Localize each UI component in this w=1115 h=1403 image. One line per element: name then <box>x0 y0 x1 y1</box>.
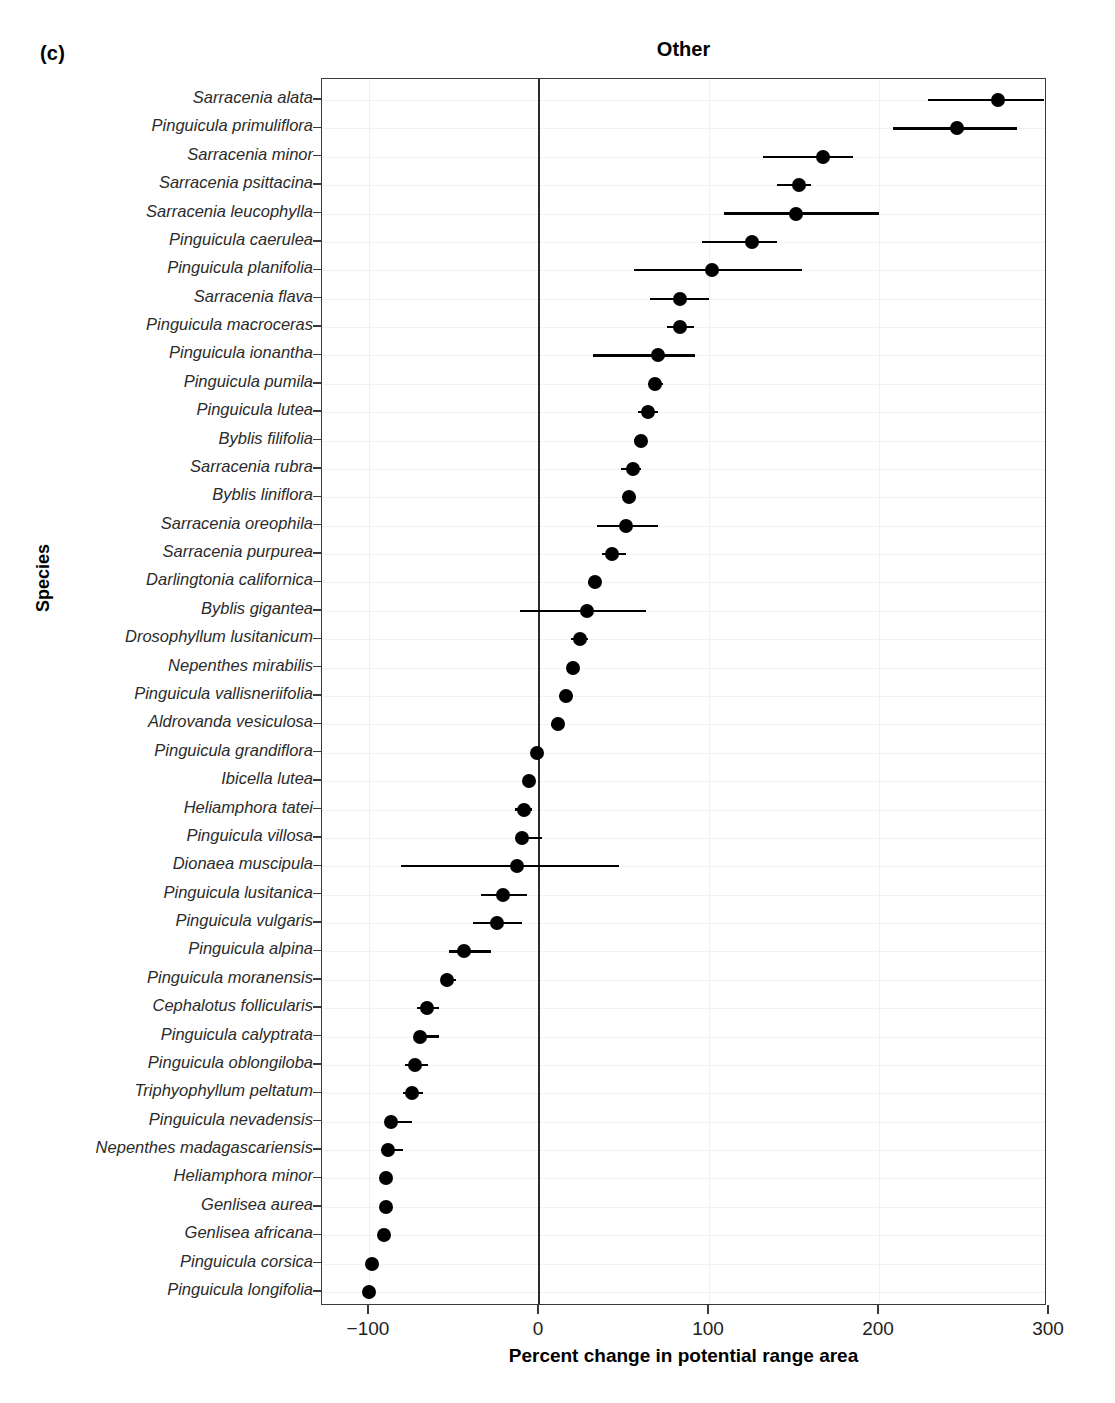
y-axis-tick <box>313 723 321 724</box>
data-point <box>626 462 640 476</box>
data-point <box>792 178 806 192</box>
data-point <box>490 916 504 930</box>
horizontal-gridline <box>322 469 1045 470</box>
plot-area <box>321 78 1046 1305</box>
x-axis-tick <box>707 1305 708 1314</box>
y-axis-tick <box>313 1290 321 1291</box>
y-tick-label: Sarracenia flava <box>194 287 313 306</box>
horizontal-gridline <box>322 980 1045 981</box>
y-tick-label: Pinguicula lusitanica <box>163 883 313 902</box>
y-axis-tick <box>313 1262 321 1263</box>
y-axis-tick <box>313 325 321 326</box>
data-point <box>745 235 759 249</box>
data-point <box>950 121 964 135</box>
y-tick-label: Pinguicula macroceras <box>146 315 313 334</box>
y-tick-label: Pinguicula vulgaris <box>175 911 313 930</box>
data-point <box>420 1001 434 1015</box>
x-tick-label: 100 <box>663 1318 753 1340</box>
y-tick-label: Nepenthes mirabilis <box>168 656 313 675</box>
data-point <box>440 973 454 987</box>
horizontal-gridline <box>322 753 1045 754</box>
horizontal-gridline <box>322 1122 1045 1123</box>
data-point <box>580 604 594 618</box>
y-axis-tick <box>313 1063 321 1064</box>
y-axis-tick <box>313 609 321 610</box>
y-tick-label: Sarracenia oreophila <box>161 514 313 533</box>
data-point <box>705 263 719 277</box>
y-axis-tick <box>313 836 321 837</box>
horizontal-gridline <box>322 668 1045 669</box>
data-point <box>457 944 471 958</box>
y-axis-tick <box>313 666 321 667</box>
y-axis-tick <box>313 581 321 582</box>
chart-title: Other <box>321 38 1046 61</box>
data-point <box>496 888 510 902</box>
horizontal-gridline <box>322 951 1045 952</box>
data-point <box>365 1257 379 1271</box>
y-tick-label: Byblis gigantea <box>201 599 313 618</box>
error-bar <box>928 99 1044 101</box>
y-axis-tick <box>313 893 321 894</box>
y-axis-tick <box>313 297 321 298</box>
vertical-gridline <box>879 79 880 1304</box>
data-point <box>559 689 573 703</box>
x-tick-label: 300 <box>1003 1318 1093 1340</box>
vertical-gridline <box>369 79 370 1304</box>
x-axis-tick <box>1047 1305 1048 1314</box>
error-bar <box>763 156 853 158</box>
horizontal-gridline <box>322 1150 1045 1151</box>
data-point <box>605 547 619 561</box>
horizontal-gridline <box>322 214 1045 215</box>
horizontal-gridline <box>322 526 1045 527</box>
y-tick-label: Sarracenia psittacina <box>159 173 313 192</box>
y-tick-label: Triphyophyllum peltatum <box>134 1081 313 1100</box>
y-tick-label: Pinguicula lutea <box>197 400 314 419</box>
data-point <box>377 1228 391 1242</box>
data-point <box>673 320 687 334</box>
y-axis-tick <box>313 1234 321 1235</box>
x-axis-tick <box>367 1305 368 1314</box>
x-axis-tick <box>877 1305 878 1314</box>
y-axis-tick <box>313 1035 321 1036</box>
y-tick-label: Heliamphora tatei <box>184 798 313 817</box>
zero-reference-line <box>538 79 540 1304</box>
horizontal-gridline <box>322 1093 1045 1094</box>
data-point <box>991 93 1005 107</box>
horizontal-gridline <box>322 441 1045 442</box>
data-point <box>515 831 529 845</box>
y-tick-label: Pinguicula alpina <box>188 939 313 958</box>
horizontal-gridline <box>322 1235 1045 1236</box>
x-tick-label: 0 <box>493 1318 583 1340</box>
horizontal-gridline <box>322 1178 1045 1179</box>
data-point <box>634 434 648 448</box>
y-tick-label: Pinguicula calyptrata <box>161 1025 313 1044</box>
y-axis-tick <box>313 808 321 809</box>
y-tick-label: Ibicella lutea <box>221 769 313 788</box>
y-tick-label: Pinguicula nevadensis <box>149 1110 313 1129</box>
y-tick-label: Sarracenia alata <box>193 88 313 107</box>
y-axis-tick <box>313 269 321 270</box>
y-tick-label: Pinguicula corsica <box>180 1252 313 1271</box>
horizontal-gridline <box>322 554 1045 555</box>
data-point <box>381 1143 395 1157</box>
y-axis-tick <box>313 354 321 355</box>
data-point <box>551 717 565 731</box>
horizontal-gridline <box>322 1207 1045 1208</box>
x-axis-tick <box>537 1305 538 1314</box>
data-point <box>651 348 665 362</box>
y-axis-tick <box>313 382 321 383</box>
data-point <box>530 746 544 760</box>
y-axis-tick <box>313 1177 321 1178</box>
horizontal-gridline <box>322 781 1045 782</box>
data-point <box>510 859 524 873</box>
y-tick-label: Sarracenia minor <box>187 145 313 164</box>
y-axis-tick <box>313 921 321 922</box>
y-tick-label: Pinguicula planifolia <box>167 258 313 277</box>
horizontal-gridline <box>322 838 1045 839</box>
y-axis-tick <box>313 1006 321 1007</box>
horizontal-gridline <box>322 242 1045 243</box>
y-tick-label-group: Sarracenia alataPinguicula primulifloraS… <box>0 0 313 1403</box>
data-point <box>566 661 580 675</box>
horizontal-gridline <box>322 412 1045 413</box>
y-axis-tick <box>313 439 321 440</box>
